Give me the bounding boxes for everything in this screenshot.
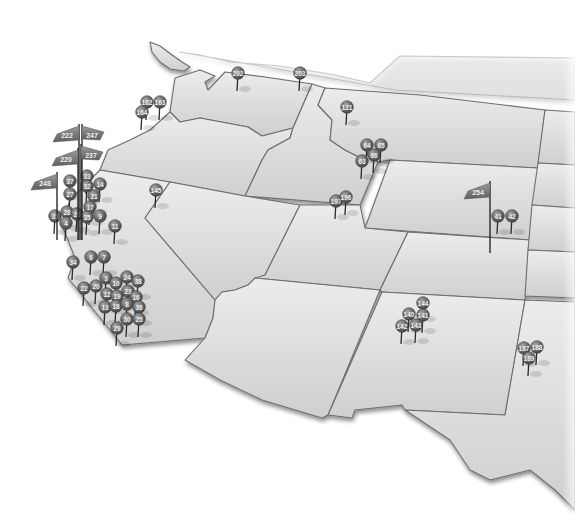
pin-label: 33 <box>83 173 91 180</box>
pin-label: 63 <box>358 158 366 165</box>
pin-label: 30 <box>123 316 131 323</box>
flag-label: 222 <box>61 132 73 139</box>
pin-label: 42 <box>508 213 516 220</box>
state-south-dakota <box>532 163 575 208</box>
pin-shadow <box>101 197 113 203</box>
state-kansas <box>525 250 575 298</box>
pin-shadow <box>382 158 394 164</box>
pin-label: 188 <box>532 344 543 351</box>
pin-label: 140 <box>404 311 415 318</box>
pin-label: 203 <box>295 70 306 77</box>
pin-label: 28 <box>63 209 71 216</box>
flag-label: 237 <box>85 152 97 159</box>
pin-shadow <box>116 239 128 245</box>
pin-label: 36 <box>135 304 143 311</box>
pin-shadow <box>347 210 359 216</box>
pin-shadow <box>375 168 387 174</box>
pin-shadow <box>78 227 90 233</box>
pin-label: 21 <box>90 193 98 200</box>
state-colorado <box>380 232 530 300</box>
pin-label: 121 <box>342 104 353 111</box>
pin-shadow <box>513 229 525 235</box>
pin-shadow <box>301 86 313 92</box>
pin-label: 163 <box>155 99 166 106</box>
pin-label: 144 <box>418 300 429 307</box>
pin-label: 12 <box>103 291 111 298</box>
pin-label: 25 <box>135 316 143 323</box>
pin-shadow <box>239 86 251 92</box>
map-flag[interactable]: 248 <box>31 172 57 240</box>
pin-label: 4 <box>64 220 68 227</box>
pin-label: 187 <box>519 345 530 352</box>
pin-label: 3 <box>104 275 108 282</box>
pin-label: 26 <box>73 211 81 218</box>
pin-label: 34 <box>69 259 77 266</box>
pin-label: 145 <box>151 187 162 194</box>
pin-label: 143 <box>411 322 422 329</box>
pin-label: 24 <box>123 274 131 281</box>
pin-shadow <box>417 338 429 344</box>
pin-label: 18 <box>112 303 120 310</box>
pin-label: 10 <box>112 280 120 287</box>
pin-label: 41 <box>494 213 502 220</box>
flag-label: 220 <box>60 156 72 163</box>
pin-label: 16 <box>132 294 140 301</box>
pin-shadow <box>140 332 152 338</box>
pin-shadow <box>363 174 375 180</box>
pin-shadow <box>74 275 86 281</box>
pin-shadow <box>161 115 173 121</box>
pin-shadow <box>348 120 360 126</box>
pin-shadow <box>538 360 550 366</box>
pin-label: 7 <box>102 254 106 261</box>
pin-shadow <box>118 341 130 347</box>
pin-shadow <box>424 328 436 334</box>
pin-shadow <box>148 115 160 121</box>
pin-label: 162 <box>142 99 153 106</box>
pin-label: 196 <box>341 194 352 201</box>
state-nebraska <box>528 205 575 252</box>
pin-label: 38 <box>134 278 142 285</box>
pin-label: 14 <box>96 181 104 188</box>
pin-label: 66 <box>370 152 378 159</box>
pin-label: 22 <box>80 285 88 292</box>
pin-shadow <box>88 230 100 236</box>
state-wyoming <box>365 160 538 240</box>
pin-label: 65 <box>377 142 385 149</box>
vancouver-island <box>150 42 190 71</box>
pin-label: 11 <box>112 223 119 230</box>
western-us-map: 2022031621631641216465666314519719641423… <box>0 0 575 525</box>
pin-label: 29 <box>113 325 121 332</box>
flag-label: 247 <box>86 132 98 139</box>
pin-label: 64 <box>363 142 371 149</box>
pin-shadow <box>143 125 155 131</box>
pin-label: 32 <box>83 183 91 190</box>
pin-shadow <box>67 236 79 242</box>
pin-label: 13 <box>101 304 109 311</box>
pin-label: 35 <box>83 214 91 221</box>
pin-shadow <box>337 214 349 220</box>
pin-label: 27 <box>66 191 74 198</box>
pin-shadow <box>157 203 169 209</box>
pin-shadow <box>403 339 415 345</box>
pin-label: 141 <box>418 312 429 319</box>
pin-label: 142 <box>397 323 408 330</box>
pin-label: 20 <box>92 283 100 290</box>
pin-label: 37 <box>66 178 74 185</box>
pin-label: 9 <box>98 213 102 220</box>
pin-shadow <box>499 229 511 235</box>
pin-label: 189 <box>524 355 535 362</box>
pin-label: 8 <box>125 301 129 308</box>
pin-label: 17 <box>86 204 94 211</box>
pin-label: 31 <box>51 213 59 220</box>
flag-label: 254 <box>472 189 484 196</box>
state-north-dakota <box>538 110 575 165</box>
pin-label: 164 <box>137 109 148 116</box>
pin-label: 19 <box>113 293 121 300</box>
flag-label: 248 <box>39 180 51 187</box>
pin-shadow <box>530 371 542 377</box>
pin-label: 202 <box>233 70 244 77</box>
pin-label: 6 <box>89 254 93 261</box>
